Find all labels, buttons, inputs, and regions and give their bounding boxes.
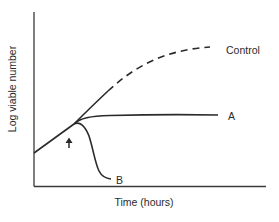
curve-a bbox=[74, 115, 218, 124]
control-curve-dashed bbox=[108, 47, 210, 91]
curve-b-label: B bbox=[116, 175, 123, 186]
curve-a-label: A bbox=[228, 111, 235, 122]
control-curve-solid bbox=[74, 91, 108, 124]
growth-curve-chart: Log viable number Time (hours) Control A… bbox=[0, 0, 279, 222]
arrow-up-icon bbox=[66, 138, 73, 149]
y-axis-label: Log viable number bbox=[7, 46, 18, 132]
plot-area bbox=[0, 0, 279, 222]
control-label: Control bbox=[226, 45, 260, 56]
curve-b bbox=[74, 123, 111, 179]
x-axis-label: Time (hours) bbox=[114, 197, 173, 208]
initial-growth-line bbox=[34, 124, 74, 153]
